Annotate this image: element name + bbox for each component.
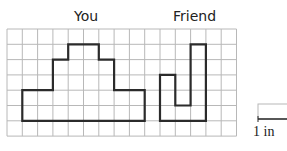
grid-diagram: [0, 0, 287, 151]
scale-key-label: 1 in: [253, 124, 274, 140]
scale-key: [258, 104, 287, 122]
friend-shape: [160, 44, 206, 121]
